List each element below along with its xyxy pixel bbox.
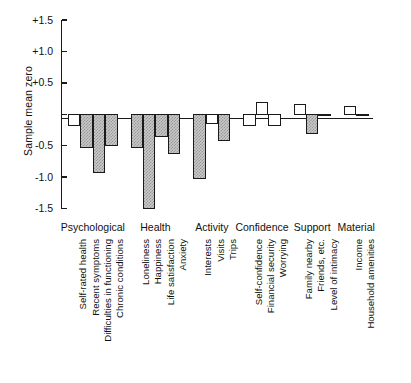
- y-axis-tick-mark: [62, 145, 67, 146]
- bar: [356, 114, 368, 117]
- x-axis-category-label: Friends, etc.: [316, 239, 326, 292]
- y-axis-tick-label: +1.5: [9, 15, 53, 25]
- y-axis-tick-mark: [62, 208, 67, 209]
- x-axis-category-label: Trips: [228, 239, 238, 260]
- x-axis-category-label: Anxiety: [178, 239, 188, 270]
- bar: [294, 104, 306, 115]
- bar: [193, 114, 205, 179]
- y-axis-tick-mark: [62, 51, 67, 52]
- y-axis-tick-mark: [62, 114, 67, 115]
- bar: [268, 114, 280, 127]
- x-axis-category-label: Recent symptoms: [91, 239, 101, 316]
- bar: [243, 114, 255, 127]
- y-axis-tick-label: +0.5: [9, 77, 53, 87]
- x-axis-category-label: Self-rated health: [78, 239, 88, 309]
- bar: [131, 114, 143, 148]
- y-axis-tick-mark: [62, 19, 67, 20]
- x-axis-group-label: Health: [140, 222, 170, 233]
- x-axis-category-label: Difficulties in functioning: [103, 239, 113, 342]
- bar: [155, 114, 167, 137]
- x-axis-category-label: Worrying: [278, 239, 288, 277]
- bar: [168, 114, 180, 154]
- bar: [218, 114, 230, 142]
- x-axis-group-label: Support: [294, 222, 331, 233]
- bar: [80, 114, 92, 148]
- x-axis-category-label: Self-confidence: [254, 239, 264, 305]
- x-axis-category-label: Income: [354, 239, 364, 270]
- x-axis-category-label: Interests: [203, 239, 213, 276]
- bar: [93, 114, 105, 173]
- x-axis-category-label: Life satisfaction: [166, 239, 176, 305]
- x-axis-category-label: Happiness: [153, 239, 163, 284]
- x-axis-category-label: Loneliness: [141, 239, 151, 285]
- x-axis-group-label: Activity: [195, 222, 228, 233]
- bar: [206, 114, 218, 125]
- x-axis-category-label: Chronic conditions: [115, 239, 125, 318]
- y-axis-tick-label: +1.0: [9, 46, 53, 56]
- y-axis-tick-label: -1.0: [9, 172, 53, 182]
- y-axis-tick-label: -1.5: [9, 203, 53, 213]
- y-axis-tick-label: -0.5: [9, 140, 53, 150]
- x-axis-category-label: Family nearby: [304, 239, 314, 299]
- y-axis-tick-mark: [62, 82, 67, 83]
- bar: [306, 114, 318, 134]
- x-axis-group-label: Confidence: [235, 222, 288, 233]
- bar: [68, 114, 80, 127]
- bar: [318, 114, 330, 117]
- x-axis-category-label: Level of intimacy: [329, 239, 339, 310]
- bar: [143, 114, 155, 210]
- x-axis-group-label: Material: [338, 222, 375, 233]
- bar-chart: Sample mean zero +1.5+1.0+0.5-0.5-1.0-1.…: [0, 0, 411, 383]
- x-axis-category-label: Financial security: [266, 239, 276, 313]
- bar: [256, 102, 268, 115]
- bar: [105, 114, 117, 147]
- x-axis-group-label: Psychological: [61, 222, 125, 233]
- x-axis-category-label: Household amenities: [366, 239, 376, 329]
- y-axis-tick-labels: +1.5+1.0+0.5-0.5-1.0-1.5: [6, 0, 53, 230]
- bar: [344, 106, 356, 115]
- plot-area: [61, 0, 409, 230]
- x-axis-category-label: Visits: [216, 239, 226, 262]
- y-axis-tick-mark: [62, 176, 67, 177]
